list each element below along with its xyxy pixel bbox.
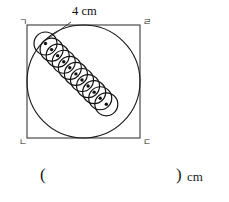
answer-blank-field[interactable]	[52, 167, 162, 185]
answer-unit-label: cm	[187, 168, 203, 186]
answer-paren-close: )	[176, 165, 182, 185]
vertex-label-bottom-right: ㄷ	[143, 138, 151, 147]
chain-circle-center-dot	[92, 90, 95, 93]
chain-circle-center-dot	[56, 54, 59, 57]
vertex-label-top-right: ㄹ	[143, 18, 151, 27]
chain-circle-center-dot	[50, 48, 53, 51]
chain-circle-center-dot	[74, 72, 77, 75]
chain-circle-center-dot	[105, 103, 108, 106]
small-circle-chain	[34, 32, 118, 116]
square-outline	[27, 25, 140, 138]
dimension-label-4cm: 4 cm	[72, 5, 97, 18]
chain-circle-center-dot	[62, 60, 65, 63]
chain-circle-center-dot	[80, 78, 83, 81]
vertex-label-bottom-left: ㄴ	[19, 138, 27, 147]
answer-paren-open: (	[40, 165, 46, 185]
chain-circle-center-dot	[68, 66, 71, 69]
chain-circle-center-dot	[86, 84, 89, 87]
inscribed-circle	[27, 25, 140, 138]
answer-row: ( ) cm	[0, 163, 229, 193]
chain-circle-center-dot	[44, 42, 47, 45]
vertex-label-top-left: ㄱ	[19, 18, 27, 27]
chain-circle-center-dot	[99, 97, 102, 100]
